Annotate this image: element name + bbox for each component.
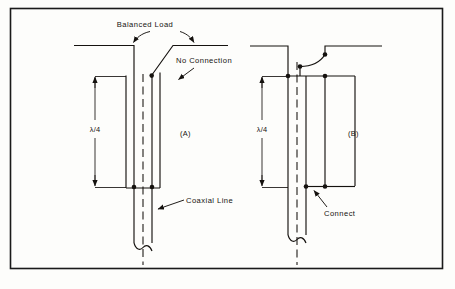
junction-dot-b-bottom-right	[323, 184, 328, 189]
quarter-wave-label-b: λ/4	[257, 125, 267, 134]
junction-dot-a-bottom-right	[150, 185, 155, 190]
junction-dot-b-top-right	[323, 74, 328, 79]
junction-dot-b-top-left	[286, 74, 291, 79]
no-connection-label: No Connection	[176, 56, 232, 65]
connect-label: Connect	[324, 209, 356, 218]
junction-dot-a-top	[149, 73, 154, 78]
junction-dot-b-jumper	[298, 64, 303, 69]
junction-dot-b-lead	[323, 52, 328, 57]
coaxial-line-label: Coaxial Line	[186, 196, 233, 205]
balanced-load-label: Balanced Load	[117, 20, 174, 29]
panel-label-b: (B)	[348, 129, 359, 138]
panel-label-a: (A)	[180, 129, 191, 138]
junction-dot-a-bottom-left	[132, 185, 137, 190]
page-background	[0, 0, 455, 289]
quarter-wave-label-a: λ/4	[90, 125, 100, 134]
junction-dot-b-bottom-left	[304, 184, 309, 189]
technical-diagram: Balanced Load No Connection Coaxial Line…	[0, 0, 455, 289]
figure-canvas: Balanced Load No Connection Coaxial Line…	[0, 0, 455, 289]
